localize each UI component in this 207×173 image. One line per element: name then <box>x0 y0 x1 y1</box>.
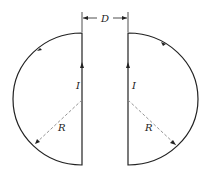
right-current-label: I <box>131 80 137 91</box>
left-radius-label: R <box>57 122 66 133</box>
current-arrow-icon <box>80 62 84 68</box>
separation-label: D <box>100 13 109 24</box>
right-loop: I R <box>126 33 198 165</box>
left-current-label: I <box>75 80 81 91</box>
right-radius-label: R <box>144 122 153 133</box>
current-arrow-icon <box>126 62 130 68</box>
two-semicircular-loops-diagram: D I R I R <box>0 0 207 173</box>
left-loop: I R <box>13 33 84 165</box>
separation-dimension: D <box>82 12 128 32</box>
